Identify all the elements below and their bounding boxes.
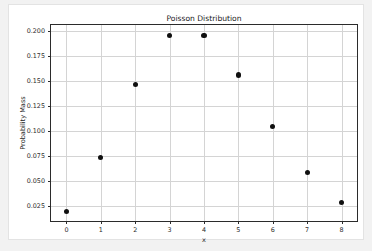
x-axis-tick (273, 221, 274, 224)
data-point (64, 209, 69, 214)
gridline-vertical (342, 25, 343, 221)
y-axis-tick (48, 181, 51, 182)
y-axis-tick-label: 0.050 (27, 177, 45, 185)
x-axis-tick (101, 221, 102, 224)
x-axis-tick (135, 221, 136, 224)
data-point (305, 170, 310, 175)
gridline-vertical (204, 25, 205, 221)
y-axis-tick (48, 131, 51, 132)
y-axis-tick-label: 0.075 (27, 152, 45, 160)
x-axis-tick-label: 4 (202, 226, 206, 234)
gridline-vertical (238, 25, 239, 221)
y-axis-tick-label: 0.025 (27, 202, 45, 210)
x-axis-tick-label: 3 (168, 226, 172, 234)
y-axis-tick (48, 156, 51, 157)
y-axis-tick-label: 0.200 (27, 27, 45, 35)
data-point (270, 124, 275, 129)
data-point (167, 33, 172, 38)
plot-area: 0.0250.0500.0750.1000.1250.1500.1750.200… (50, 24, 358, 222)
gridline-vertical (273, 25, 274, 221)
data-point (236, 72, 241, 77)
gridline-vertical (170, 25, 171, 221)
data-point (201, 33, 206, 38)
page-background: Poisson Distribution Probability Mass x … (0, 0, 372, 251)
chart-title: Poisson Distribution (49, 14, 359, 23)
x-axis-tick-label: 1 (99, 226, 103, 234)
x-axis-tick (307, 221, 308, 224)
gridline-vertical (307, 25, 308, 221)
figure-panel: Poisson Distribution Probability Mass x … (8, 4, 364, 240)
x-axis-tick-label: 8 (339, 226, 343, 234)
y-axis-tick-label: 0.150 (27, 77, 45, 85)
x-axis-title: x (50, 236, 358, 244)
y-axis-tick (48, 206, 51, 207)
x-axis-tick (342, 221, 343, 224)
plot-inner (51, 25, 357, 221)
x-axis-tick-label: 6 (271, 226, 275, 234)
x-axis-tick-label: 7 (305, 226, 309, 234)
gridline-vertical (101, 25, 102, 221)
data-point (133, 82, 138, 87)
x-axis-tick (66, 221, 67, 224)
data-point (339, 200, 344, 205)
y-axis-tick-label: 0.175 (27, 52, 45, 60)
x-axis-tick-label: 0 (64, 226, 68, 234)
gridline-vertical (135, 25, 136, 221)
y-axis-tick-label: 0.100 (27, 127, 45, 135)
x-axis-tick-label: 2 (133, 226, 137, 234)
x-axis-tick-label: 5 (236, 226, 240, 234)
data-point (98, 155, 103, 160)
x-axis-tick (170, 221, 171, 224)
y-axis-tick (48, 56, 51, 57)
y-axis-tick (48, 81, 51, 82)
y-axis-tick (48, 106, 51, 107)
x-axis-tick (204, 221, 205, 224)
y-axis-tick (48, 31, 51, 32)
x-axis-tick (238, 221, 239, 224)
gridline-vertical (66, 25, 67, 221)
y-axis-tick-label: 0.125 (27, 102, 45, 110)
